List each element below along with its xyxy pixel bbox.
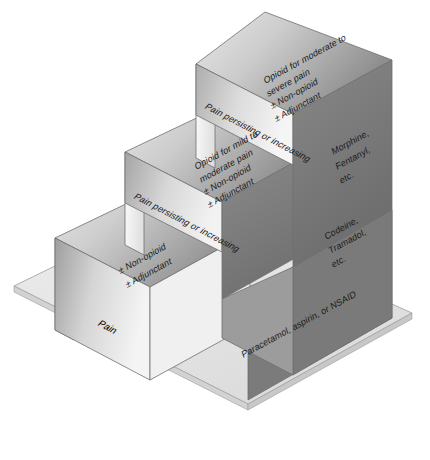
- ladder-svg: ± Non-opioid ± Adjunctant Pain Paracetam…: [0, 0, 430, 460]
- who-analgesic-ladder-figure: ± Non-opioid ± Adjunctant Pain Paracetam…: [0, 0, 430, 460]
